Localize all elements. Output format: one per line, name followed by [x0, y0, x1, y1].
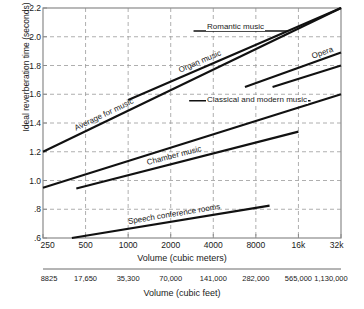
series-label-romantic: Romantic music	[206, 22, 265, 31]
x-tick-label-meters: 250	[40, 240, 54, 250]
x-tick-label-meters: 16k	[292, 240, 306, 250]
x-tick-label-feet: 1,130,000	[314, 274, 347, 283]
x-tick-label-feet: 70,000	[159, 274, 182, 283]
series-label-classical: Classical and modern music	[206, 95, 308, 104]
x-tick-label-meters: 32k	[330, 240, 344, 250]
x-tick-label-feet: 8825	[41, 274, 58, 283]
x-tick-label-meters: 1000	[119, 240, 138, 250]
x-tick-label-meters: 2000	[161, 240, 180, 250]
x-axis-title-feet: Volume (cubic feet)	[0, 288, 364, 298]
x-tick-label-meters: 4000	[204, 240, 223, 250]
x-tick-label-feet: 141,000	[200, 274, 227, 283]
x-tick-label-meters: 500	[78, 240, 92, 250]
x-tick-label-feet: 565,000	[285, 274, 312, 283]
x-tick-label-meters: 8000	[246, 240, 265, 250]
x-tick-label-feet: 17,650	[74, 274, 97, 283]
x-axis-title-meters: Volume (cubic meters)	[0, 253, 364, 263]
reverberation-time-chart: Ideal reverberation time (seconds) 2.22.…	[0, 0, 364, 309]
x-tick-label-feet: 282,000	[242, 274, 269, 283]
x-tick-label-feet: 35,300	[117, 274, 140, 283]
